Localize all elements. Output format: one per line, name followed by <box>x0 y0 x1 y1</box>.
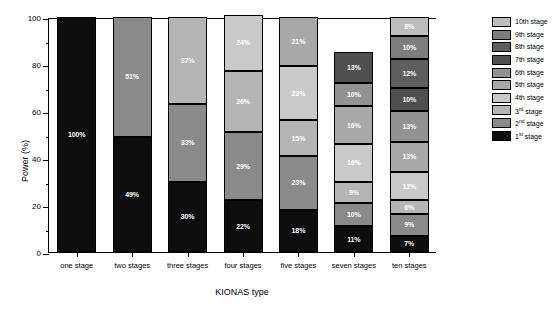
bar-segment[interactable]: 10% <box>334 203 373 227</box>
y-axis-tick-label: 0 <box>37 250 41 258</box>
bar-segment-value: 8% <box>404 23 414 30</box>
legend-item[interactable]: 6th stage <box>492 66 552 79</box>
legend-swatch <box>492 68 511 78</box>
plot-inner: 020406080100one stage100%two stages49%51… <box>49 19 436 252</box>
bar-segment-value: 51% <box>125 73 139 80</box>
bar-segment[interactable]: 12% <box>390 172 429 200</box>
bar-segment-value: 24% <box>236 39 250 46</box>
bar-segment[interactable]: 6% <box>390 200 429 214</box>
y-axis-minor-tick <box>46 43 49 44</box>
bar-segment-value: 23% <box>292 90 306 97</box>
x-axis-tick <box>188 252 189 257</box>
bar-column[interactable]: 30%33%37% <box>168 17 207 252</box>
bar-segment-value: 10% <box>347 91 361 98</box>
y-axis-title: Power (%) <box>20 140 30 182</box>
bar-segment-value: 13% <box>347 64 361 71</box>
legend-label: 3rd stage <box>515 105 542 116</box>
legend-item[interactable]: 8th stage <box>492 41 552 54</box>
legend-swatch <box>492 80 511 90</box>
bar-segment[interactable]: 18% <box>279 210 318 252</box>
bar-segment[interactable]: 11% <box>334 226 373 252</box>
bar-segment[interactable]: 8% <box>390 17 429 36</box>
bar-segment[interactable]: 33% <box>168 104 207 182</box>
y-axis-minor-tick <box>46 90 49 91</box>
legend-swatch <box>492 105 511 115</box>
bar-segment-value: 33% <box>181 139 195 146</box>
legend-item[interactable]: 4th stage <box>492 92 552 105</box>
bar-segment[interactable]: 23% <box>279 156 318 210</box>
bar-segment-value: 11% <box>347 236 360 243</box>
y-axis-tick-label: 60 <box>32 109 41 117</box>
legend-item[interactable]: 3rd stage <box>492 104 552 117</box>
bar-segment[interactable]: 26% <box>224 71 263 132</box>
bar-segment-value: 9% <box>349 189 359 196</box>
bar-segment[interactable]: 7% <box>390 236 429 252</box>
bar-segment[interactable]: 16% <box>334 144 373 182</box>
bar-column[interactable]: 7%9%6%12%13%13%10%12%10%8% <box>390 17 429 252</box>
bar-segment-value: 29% <box>236 163 250 170</box>
x-axis-tick-label: three stages <box>167 261 208 270</box>
y-axis-tick-label: 40 <box>32 156 41 164</box>
bar-segment[interactable]: 16% <box>334 106 373 144</box>
x-axis-tick-label: one stage <box>60 261 93 270</box>
chart-legend: 10th stage9th stage8th stage7th stage6th… <box>492 16 552 142</box>
bar-segment[interactable]: 29% <box>224 132 263 200</box>
bar-segment[interactable]: 12% <box>390 59 429 87</box>
legend-item[interactable]: 9th stage <box>492 29 552 42</box>
bar-segment-value: 30% <box>181 213 195 220</box>
bar-segment[interactable]: 30% <box>168 182 207 253</box>
bar-segment-value: 23% <box>292 179 306 186</box>
bar-segment[interactable]: 37% <box>168 17 207 104</box>
bar-column[interactable]: 22%29%26%24% <box>224 17 263 252</box>
bar-segment-value: 49% <box>125 191 139 198</box>
bar-segment[interactable]: 24% <box>224 15 263 71</box>
bar-segment[interactable]: 13% <box>390 111 429 142</box>
bar-segment[interactable]: 23% <box>279 66 318 120</box>
x-axis-tick <box>354 252 355 257</box>
bar-segment[interactable]: 10% <box>334 83 373 107</box>
bar-column[interactable]: 49%51% <box>113 17 152 252</box>
x-axis-tick <box>132 252 133 257</box>
legend-item[interactable]: 5th stage <box>492 79 552 92</box>
y-axis-tick-label: 100 <box>28 15 41 23</box>
bar-segment[interactable]: 51% <box>113 17 152 137</box>
legend-swatch <box>492 17 511 27</box>
x-axis-tick-label: four stages <box>224 261 261 270</box>
bar-segment[interactable]: 9% <box>390 214 429 235</box>
bar-segment-value: 10% <box>402 96 416 103</box>
bar-segment[interactable]: 22% <box>224 200 263 252</box>
legend-swatch <box>492 42 511 52</box>
bar-segment[interactable]: 13% <box>334 52 373 83</box>
y-axis-tick-label: 80 <box>32 62 41 70</box>
bar-segment[interactable]: 100% <box>57 17 96 252</box>
bar-column[interactable]: 11%10%9%16%16%10%13% <box>334 17 373 252</box>
legend-item[interactable]: 1st stage <box>492 129 552 142</box>
bar-segment[interactable]: 9% <box>334 182 373 203</box>
plot-area: 020406080100one stage100%two stages49%51… <box>48 18 436 253</box>
bar-segment[interactable]: 21% <box>279 17 318 66</box>
bar-segment[interactable]: 49% <box>113 137 152 252</box>
bar-segment-value: 13% <box>402 153 416 160</box>
bar-segment-value: 37% <box>181 57 195 64</box>
legend-label: 2nd stage <box>515 117 544 128</box>
legend-item[interactable]: 7th stage <box>492 54 552 67</box>
x-axis-tick-label: five stages <box>280 261 316 270</box>
bar-segment[interactable]: 13% <box>390 142 429 173</box>
bar-segment[interactable]: 10% <box>390 36 429 60</box>
bar-column[interactable]: 18%23%15%23%21% <box>279 17 318 252</box>
bar-column[interactable]: 100% <box>57 17 96 252</box>
bar-segment-value: 26% <box>236 98 250 105</box>
y-axis-tick-label: 20 <box>32 203 41 211</box>
bar-segment[interactable]: 15% <box>279 120 318 155</box>
y-axis-minor-tick <box>46 137 49 138</box>
x-axis-title: KIONAS type <box>48 287 436 297</box>
legend-label: 9th stage <box>515 31 544 39</box>
y-axis-tick <box>43 113 49 114</box>
bar-segment[interactable]: 10% <box>390 88 429 112</box>
bar-segment-value: 22% <box>236 223 250 230</box>
bar-segment-value: 16% <box>347 122 361 129</box>
legend-item[interactable]: 10th stage <box>492 16 552 29</box>
bar-segment-value: 12% <box>402 183 416 190</box>
legend-item[interactable]: 2nd stage <box>492 117 552 130</box>
y-axis-tick <box>43 160 49 161</box>
